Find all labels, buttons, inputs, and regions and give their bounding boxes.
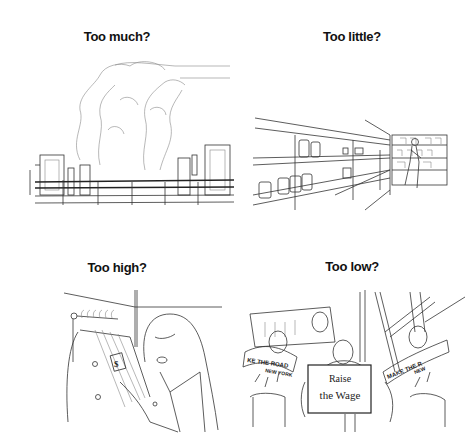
panel-too-low: Too low? KE THE ROAD NEW YORK MAKE THE R… [235, 222, 469, 444]
price-tag-shock-illustration: $ [0, 222, 234, 444]
wage-protest-illustration: KE THE ROAD NEW YORK MAKE THE R NEW Rais… [235, 222, 469, 444]
price-tag-symbol: $ [114, 359, 119, 369]
panel-too-much: Too much? [0, 0, 234, 222]
sign-line1: Raise [329, 373, 352, 384]
sign-line2: the Wage [320, 389, 361, 401]
panel-too-high: Too high? $ [0, 222, 234, 444]
empty-shelves-illustration [235, 0, 469, 222]
city-smoke-illustration [0, 0, 234, 222]
panel-too-little: Too little? [235, 0, 469, 222]
